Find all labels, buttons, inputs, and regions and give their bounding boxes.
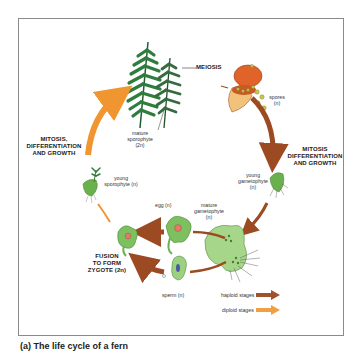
label-young-gametophyte: young gametophyte (n) bbox=[236, 172, 270, 190]
legend-haploid: haploid stages bbox=[221, 290, 280, 300]
haploid-arrow-icon bbox=[256, 290, 280, 300]
zygote bbox=[118, 226, 138, 256]
meiosis-text: MEIOSIS bbox=[196, 64, 222, 70]
mitosis-left-line-1: MITOSIS, bbox=[24, 136, 84, 143]
label-young-sporophyte: young sporophyte (n) bbox=[100, 175, 142, 187]
label-mature-sporophyte: mature sporophyte (2n) bbox=[120, 130, 160, 148]
stage-meiosis: MEIOSIS bbox=[196, 64, 222, 71]
mature-sporophyte-fern bbox=[128, 42, 196, 130]
stage-fusion: FUSION TO FORM ZYGOTE (2n) bbox=[82, 253, 132, 273]
legend-diploid: diploid stages bbox=[222, 305, 280, 315]
legend-diploid-label: diploid stages bbox=[222, 307, 254, 313]
figure-caption: (a) The life cycle of a fern bbox=[20, 341, 128, 351]
young-sporophyte-line-2: sporophyte (n) bbox=[100, 181, 142, 187]
label-spores: spores (n) bbox=[265, 94, 289, 106]
archegonium-egg bbox=[166, 216, 191, 254]
egg-text: egg (n) bbox=[155, 202, 171, 208]
mature-gametophyte-line-3: (n) bbox=[192, 214, 226, 220]
label-mature-gametophyte: mature gametophyte (n) bbox=[192, 202, 226, 220]
young-sporophyte bbox=[83, 168, 100, 203]
haploid-arrow-sperm-to-zygote bbox=[140, 262, 164, 272]
label-sperm: sperm (n) bbox=[162, 292, 184, 298]
haploid-arrow-young-to-mature bbox=[247, 203, 267, 230]
haploid-line-to-sperm bbox=[190, 262, 226, 272]
mitosis-left-line-2: DIFFERENTIATION bbox=[24, 143, 84, 150]
young-gametophyte bbox=[270, 173, 288, 198]
mature-sporophyte-line-3: (2n) bbox=[120, 142, 160, 148]
mitosis-right-line-1: MITOSIS bbox=[285, 146, 345, 153]
mitosis-right-line-2: DIFFERENTIATION bbox=[285, 153, 345, 160]
diploid-arrow-to-mature-sporophyte bbox=[88, 96, 118, 155]
fusion-line-3: ZYGOTE (2n) bbox=[82, 267, 132, 274]
fusion-line-1: FUSION bbox=[82, 253, 132, 260]
mitosis-right-line-3: AND GROWTH bbox=[285, 160, 345, 167]
fusion-line-2: TO FORM bbox=[82, 260, 132, 267]
diploid-arrow-icon bbox=[256, 305, 280, 315]
mitosis-left-line-3: AND GROWTH bbox=[24, 150, 84, 157]
young-gametophyte-line-3: (n) bbox=[236, 184, 270, 190]
haploid-arrow-spores-to-gametophyte bbox=[252, 98, 273, 158]
stage-mitosis-left: MITOSIS, DIFFERENTIATION AND GROWTH bbox=[24, 136, 84, 156]
diploid-arrow-zygote-to-young-sporophyte bbox=[98, 204, 110, 222]
stage-mitosis-right: MITOSIS DIFFERENTIATION AND GROWTH bbox=[285, 146, 345, 166]
spores-line-2: (n) bbox=[265, 100, 289, 106]
label-egg: egg (n) bbox=[155, 202, 171, 208]
sperm-text: sperm (n) bbox=[162, 292, 184, 298]
legend-haploid-label: haploid stages bbox=[221, 292, 254, 298]
